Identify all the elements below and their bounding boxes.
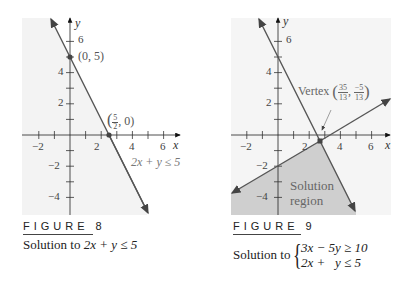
fig9-tick-y4: 4 (266, 65, 272, 77)
fig9-tick-y2: 2 (266, 96, 272, 108)
fig8-point-0-5 (67, 54, 72, 59)
fig8-tick-yneg4: −4 (48, 190, 60, 202)
fig9-vertex-label: Vertex (3513, −513) (298, 82, 370, 102)
fig8-y-label: y (75, 16, 80, 31)
fig9-x-label: x (385, 138, 390, 153)
fig9-title: FIGURE 9 (233, 220, 316, 232)
fig8-tick-y6: 6 (78, 33, 84, 45)
fig9-caption-prefix: Solution to (233, 247, 290, 263)
fig8-point-5-2-0 (106, 132, 111, 137)
fig9-region-label-2: region (290, 193, 323, 209)
fig8-tick-y4: 4 (58, 65, 64, 77)
fig8-point-label-5-2-0: (52, 0) (107, 111, 134, 131)
fig9-region-label-1: Solution (290, 178, 334, 194)
fig9-tick-xneg2: −2 (240, 140, 252, 152)
fig9-tick-x2: 2 (302, 140, 308, 152)
fig8-inequality-label: 2x + y ≤ 5 (131, 155, 180, 170)
fig9-tick-yneg4: −4 (256, 190, 268, 202)
fig9-y-label: y (283, 14, 288, 29)
fig9-system-line-2: 2x + y ≤ 5 (301, 255, 361, 270)
fig8-x-label: x (173, 138, 178, 153)
fig8-point-label-0-5: (0, 5) (78, 49, 104, 64)
fig9-title-rule (233, 234, 301, 235)
fig8-tick-x6: 6 (160, 140, 166, 152)
fig8-tick-x2: 2 (94, 140, 100, 152)
fig9-tick-yneg2: −2 (256, 159, 268, 171)
fig9-system-line-1: 3x − 5y ≥ 10 (301, 240, 367, 255)
fig9-vertex-point (318, 139, 323, 144)
fig8-tick-x4: 4 (129, 140, 135, 152)
fig9-tick-x4: 4 (337, 140, 343, 152)
fig8-title-rule (23, 234, 93, 235)
fig8-title: FIGURE 8 (23, 220, 106, 232)
fig8-caption: Solution to 2x + y ≤ 5 (23, 237, 137, 253)
fig8-tick-yneg2: −2 (48, 159, 60, 171)
fig8-tick-xneg2: −2 (32, 140, 44, 152)
fig8-tick-y2: 2 (58, 96, 64, 108)
fig9-tick-y6: 6 (286, 33, 292, 45)
fig9-tick-x6: 6 (368, 140, 374, 152)
